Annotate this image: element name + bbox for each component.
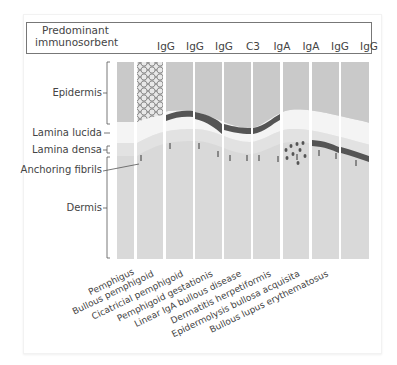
layer-label-lamina-lucida: Lamina lucida (32, 127, 102, 138)
skin-columns (110, 62, 375, 259)
layer-label-lamina-densa: Lamina densa (32, 144, 102, 155)
layer-label-anchoring-fibrils: Anchoring fibrils (21, 164, 102, 175)
pemphigus-intercellular-pattern (137, 62, 163, 122)
layer-label-dermis: Dermis (66, 202, 102, 213)
layer-label-epidermis: Epidermis (52, 87, 102, 98)
